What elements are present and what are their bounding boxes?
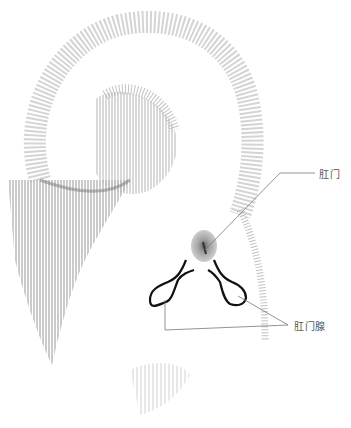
- label-anus: 肛门: [319, 166, 340, 181]
- right-thigh-shading: [240, 210, 265, 340]
- left-thigh-shading: [8, 180, 130, 365]
- lower-body-sketch: [130, 363, 190, 415]
- dog-rear-illustration: [0, 0, 351, 428]
- illustration-canvas: 肛门 肛门腺: [0, 0, 351, 428]
- anal-gland-right-outline: [208, 260, 246, 305]
- label-anal-glands: 肛门腺: [294, 318, 326, 333]
- leader-line-anus: [205, 173, 315, 250]
- anal-gland-left-outline: [150, 260, 194, 306]
